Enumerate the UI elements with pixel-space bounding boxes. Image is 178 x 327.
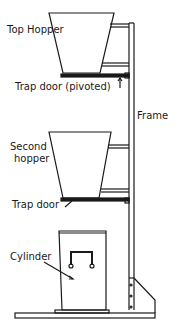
base-plate	[15, 313, 155, 318]
label-second-hopper-line2: hopper	[14, 153, 49, 164]
label-trap-door: Trap door	[12, 199, 59, 210]
label-frame: Frame	[137, 110, 168, 121]
second-hopper	[49, 132, 129, 198]
cylinder	[44, 231, 109, 313]
second-trap-door	[61, 198, 129, 207]
label-cylinder: Cylinder	[10, 251, 51, 262]
label-top-hopper: Top Hopper	[7, 24, 64, 35]
label-trap-door-pivoted: Trap door (pivoted)	[15, 81, 111, 92]
frame-post	[129, 23, 134, 310]
label-second-hopper-line1: Second	[10, 141, 47, 152]
top-hopper	[49, 13, 129, 73]
frame-gusset	[129, 278, 155, 313]
